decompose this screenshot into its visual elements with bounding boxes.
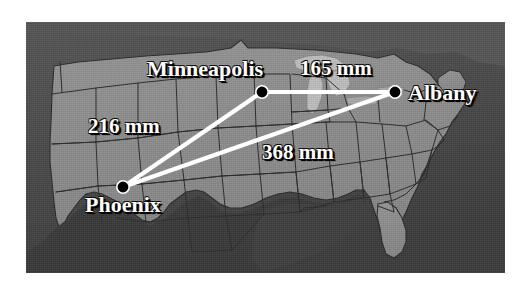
city-label-phoenix: Phoenix: [85, 194, 161, 216]
lake-ontario: [378, 86, 404, 96]
distance-label-phoenix-albany: 368 mm: [262, 142, 334, 163]
city-label-minneapolis: Minneapolis: [147, 58, 263, 80]
distance-label-minneapolis-albany: 165 mm: [300, 58, 372, 79]
distance-label-phoenix-minneapolis: 216 mm: [88, 116, 160, 137]
lake-erie: [346, 96, 378, 106]
map-figure: Minneapolis Albany Phoenix 165 mm 216 mm…: [0, 0, 525, 287]
city-label-albany: Albany: [408, 82, 476, 104]
